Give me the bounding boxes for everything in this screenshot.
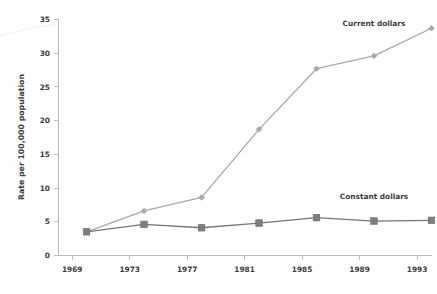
x-axis-tick-labels: 1969 1973 1977 1981 1985 1989 1993: [62, 265, 427, 274]
data-point-marker: [83, 229, 90, 236]
series-label-current-dollars: Current dollars: [343, 19, 406, 28]
data-point-marker: [141, 208, 147, 214]
x-tick-label: 1977: [177, 265, 198, 274]
y-tick-label: 15: [40, 150, 50, 159]
series-label-constant-dollars: Constant dollars: [340, 192, 409, 201]
x-tick-label: 1981: [234, 265, 255, 274]
x-axis-ticks: [72, 256, 417, 261]
x-tick-label: 1985: [292, 265, 313, 274]
series-current-dollars: [84, 25, 435, 234]
y-tick-label: 30: [40, 49, 50, 58]
y-axis-ticks: [54, 20, 59, 256]
data-point-marker: [198, 224, 205, 231]
y-tick-label: 25: [40, 83, 50, 92]
y-axis-title: Rate per 100,000 population: [17, 74, 26, 200]
data-point-marker: [256, 220, 263, 227]
x-tick-label: 1973: [119, 265, 140, 274]
y-tick-label: 5: [45, 217, 50, 226]
chart-container: 35 30 25 20 15 10 5 0 Rate per 100,000 p…: [0, 0, 437, 294]
x-tick-label: 1993: [407, 265, 428, 274]
series-constant-dollars: [83, 214, 435, 235]
x-tick-label: 1989: [349, 265, 370, 274]
scan-artifact: [0, 24, 58, 36]
data-point-marker: [371, 53, 377, 59]
series-layer: [83, 25, 435, 235]
data-point-marker: [429, 25, 435, 31]
y-tick-label: 20: [40, 116, 50, 125]
y-tick-label: 10: [40, 184, 50, 193]
data-point-marker: [141, 221, 148, 228]
y-axis-tick-labels: 35 30 25 20 15 10 5 0: [40, 15, 50, 260]
data-point-marker: [371, 218, 378, 225]
y-tick-label: 35: [40, 15, 50, 24]
data-point-marker: [313, 214, 320, 221]
y-tick-label: 0: [45, 251, 50, 260]
x-tick-label: 1969: [62, 265, 83, 274]
data-point-marker: [428, 217, 435, 224]
line-chart: 35 30 25 20 15 10 5 0 Rate per 100,000 p…: [0, 0, 437, 294]
